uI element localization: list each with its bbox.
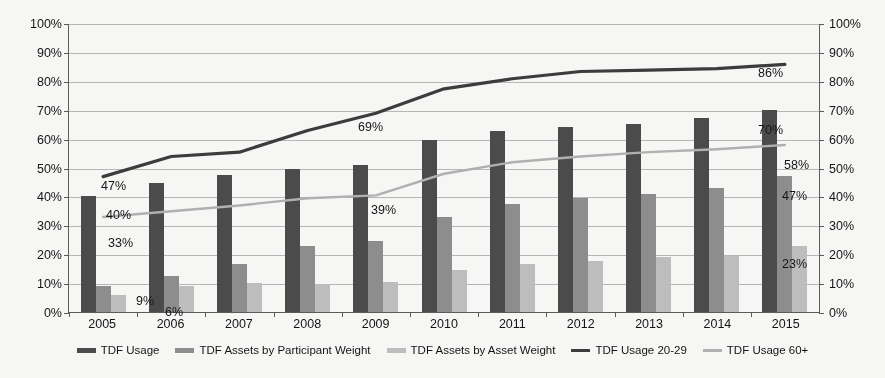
line-series [103,64,785,176]
x-axis-tick-label: 2008 [273,318,341,338]
x-axis-tick [751,312,752,317]
legend-item[interactable]: TDF Assets by Asset Weight [387,344,556,356]
legend-swatch-icon [77,348,96,353]
data-label: 40% [106,209,131,222]
y-axis-right-tick-label: 30% [829,220,854,233]
y-axis-left-tick-label: 70% [37,105,62,118]
y-axis-left-tick-label: 0% [44,307,62,320]
y-axis-left-tick-label: 90% [37,47,62,60]
legend-label: TDF Assets by Asset Weight [411,344,556,356]
x-axis-tick-label: 2007 [205,318,273,338]
x-axis-tick [410,312,411,317]
plot-area [68,24,820,313]
data-label: 47% [782,190,807,203]
legend-swatch-icon [387,348,406,353]
x-axis-tick [342,312,343,317]
y-axis-right-tick-label: 50% [829,163,854,176]
y-axis-right-tick-label: 90% [829,47,854,60]
y-axis-right-tick-label: 60% [829,134,854,147]
legend-swatch-icon [571,349,590,352]
legend-swatch-icon [703,349,722,352]
legend-item[interactable]: TDF Usage 20-29 [571,344,686,356]
data-label: 33% [108,237,133,250]
x-axis-tick-label: 2014 [683,318,751,338]
x-axis-tick [478,312,479,317]
data-label: 47% [101,180,126,193]
data-label: 9% [136,295,154,308]
y-axis-left-tick-label: 60% [37,134,62,147]
x-axis-tick-label: 2015 [752,318,820,338]
axis-tick [819,226,824,227]
legend-item[interactable]: TDF Assets by Participant Weight [175,344,370,356]
legend-item[interactable]: TDF Usage [77,344,160,356]
legend-swatch-icon [175,348,194,353]
legend-label: TDF Usage 60+ [727,344,809,356]
y-axis-right-tick-label: 70% [829,105,854,118]
x-axis-tick-label: 2013 [615,318,683,338]
x-axis-tick [137,312,138,317]
x-axis-tick-label: 2011 [478,318,546,338]
y-axis-left-tick-label: 100% [30,18,62,31]
x-axis-tick [69,312,70,317]
data-label: 39% [371,204,396,217]
x-axis-tick-label: 2005 [68,318,136,338]
line-series-layer [69,24,819,312]
y-axis-right-tick-label: 80% [829,76,854,89]
axis-tick [819,284,824,285]
x-axis-tick-label: 2009 [341,318,409,338]
data-label: 69% [358,121,383,134]
axis-tick [819,82,824,83]
axis-tick [819,197,824,198]
x-axis-tick-label: 2010 [410,318,478,338]
chart-container: 0%10%20%30%40%50%60%70%80%90%100% 0%10%2… [0,0,885,378]
y-axis-left-tick-label: 30% [37,220,62,233]
y-axis-right-tick-label: 10% [829,278,854,291]
x-axis-tick [615,312,616,317]
y-axis-right-tick-label: 100% [829,18,861,31]
axis-tick [819,24,824,25]
data-label: 70% [758,124,783,137]
y-axis-left-tick-label: 20% [37,249,62,262]
y-axis-left-tick-label: 50% [37,163,62,176]
x-axis-labels: 2005200620072008200920102011201220132014… [68,318,820,338]
legend-label: TDF Usage [101,344,160,356]
x-axis-tick-label: 2006 [136,318,204,338]
data-label: 23% [782,258,807,271]
y-axis-left-tick-label: 80% [37,76,62,89]
x-axis-tick [205,312,206,317]
legend-label: TDF Usage 20-29 [595,344,686,356]
axis-tick [819,111,824,112]
axis-tick [819,255,824,256]
x-axis-tick-label: 2012 [547,318,615,338]
x-axis-tick [546,312,547,317]
x-axis-tick [683,312,684,317]
y-axis-left-tick-label: 10% [37,278,62,291]
chart-legend: TDF UsageTDF Assets by Participant Weigh… [0,344,885,356]
data-label: 86% [758,67,783,80]
axis-tick [819,169,824,170]
legend-item[interactable]: TDF Usage 60+ [703,344,809,356]
y-axis-right-tick-label: 0% [829,307,847,320]
y-axis-left-tick-label: 40% [37,191,62,204]
axis-tick [819,53,824,54]
y-axis-right-tick-label: 20% [829,249,854,262]
legend-label: TDF Assets by Participant Weight [199,344,370,356]
data-label: 58% [784,159,809,172]
y-axis-right-tick-label: 40% [829,191,854,204]
x-axis-tick [274,312,275,317]
axis-tick [819,140,824,141]
axis-tick [819,313,824,314]
